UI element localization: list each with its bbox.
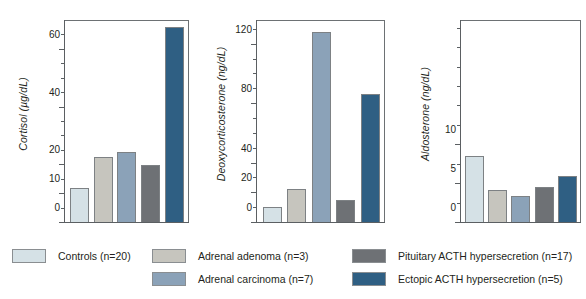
y-axis-minor-tick-aldosterone: [457, 203, 460, 204]
y-axis-minor-tick-cortisol: [61, 63, 64, 64]
y-tick-label-cortisol-60: 60: [49, 30, 60, 40]
y-axis-major-tick-deoxycorticosterone: [251, 103, 256, 104]
chart-legend: Controls (n=20) Adrenal adenoma (n=3)Adr…: [0, 244, 586, 289]
y-axis-minor-tick-deoxycorticosterone: [253, 148, 256, 149]
legend-swatch: [352, 272, 386, 286]
y-axis-tick-labels-aldosterone: 0510: [430, 6, 456, 222]
legend-column-3: Pituitary ACTH hypersecretion (n=17)Ecto…: [352, 244, 572, 290]
y-axis-minor-tick-cortisol: [61, 92, 64, 93]
bar-cortisol-series-4: [141, 165, 160, 222]
bar-aldosterone-series-1: [465, 156, 484, 222]
chart-panels-row: Cortisol (µg/dL) 010204060 Deoxycorticos…: [0, 6, 586, 242]
y-axis-major-tick-cortisol: [59, 49, 64, 50]
legend-swatch: [152, 272, 186, 286]
y-axis-major-tick-deoxycorticosterone: [251, 192, 256, 193]
y-axis-minor-tick-aldosterone: [457, 28, 460, 29]
y-tick-label-aldosterone-0: 0: [450, 203, 456, 213]
y-axis-tick-labels-cortisol: 010204060: [34, 6, 60, 222]
y-axis-minor-tick-deoxycorticosterone: [253, 177, 256, 178]
y-axis-title-cortisol-text: Cortisol (µg/dL): [17, 77, 29, 151]
y-tick-label-deoxycorticosterone-40: 40: [241, 144, 252, 154]
legend-label: Ectopic ACTH hypersecretion (n=5): [398, 273, 563, 285]
y-tick-label-cortisol-0: 0: [54, 203, 60, 213]
bar-aldosterone-series-3: [511, 196, 530, 222]
y-axis-minor-tick-aldosterone: [457, 86, 460, 87]
y-tick-label-deoxycorticosterone-20: 20: [241, 173, 252, 183]
y-axis-minor-tick-cortisol: [61, 179, 64, 180]
bar-aldosterone-series-5: [558, 176, 577, 222]
y-axis-major-tick-aldosterone: [455, 144, 460, 145]
y-axis-minor-tick-cortisol: [61, 150, 64, 151]
legend-item: Adrenal adenoma (n=3): [152, 244, 313, 267]
legend-swatch: [152, 249, 186, 263]
bars-cortisol: [65, 20, 189, 222]
bar-deoxycorticosterone-series-2: [287, 189, 306, 222]
y-axis-major-tick-cortisol: [59, 107, 64, 108]
legend-label: Pituitary ACTH hypersecretion (n=17): [398, 250, 572, 262]
y-tick-label-deoxycorticosterone-80: 80: [241, 84, 252, 94]
bar-deoxycorticosterone-series-4: [336, 200, 355, 222]
y-axis-major-tick-deoxycorticosterone: [251, 44, 256, 45]
x-axis-line-aldosterone: [460, 222, 581, 223]
y-tick-label-deoxycorticosterone-0: 0: [246, 203, 252, 213]
y-axis-tick-labels-deoxycorticosterone: 0204080120: [226, 6, 252, 222]
y-axis-minor-tick-aldosterone: [457, 125, 460, 126]
y-axis-major-tick-deoxycorticosterone: [251, 163, 256, 164]
x-axis-line-deoxycorticosterone: [256, 222, 385, 223]
legend-item: Controls (n=20): [12, 244, 131, 267]
bar-deoxycorticosterone-series-3: [312, 32, 331, 222]
bar-deoxycorticosterone-series-5: [361, 94, 380, 222]
y-axis-minor-tick-cortisol: [61, 135, 64, 136]
legend-column-1: Controls (n=20): [12, 244, 131, 267]
bars-aldosterone: [461, 20, 581, 222]
bar-cortisol-series-5: [165, 27, 184, 222]
y-axis-minor-tick-deoxycorticosterone: [253, 207, 256, 208]
legend-label: Adrenal adenoma (n=3): [198, 250, 309, 262]
y-axis-minor-tick-deoxycorticosterone: [253, 29, 256, 30]
y-axis-minor-tick-deoxycorticosterone: [253, 88, 256, 89]
legend-item: Adrenal carcinoma (n=7): [152, 267, 313, 290]
y-axis-minor-tick-deoxycorticosterone: [253, 133, 256, 134]
y-axis-minor-tick-cortisol: [61, 78, 64, 79]
y-axis-minor-tick-deoxycorticosterone: [253, 118, 256, 119]
chart-panel-deoxycorticosterone: Deoxycorticosterone (ng/dL) 0204080120: [196, 6, 396, 242]
legend-swatch: [12, 249, 46, 263]
y-tick-label-cortisol-40: 40: [49, 88, 60, 98]
y-axis-minor-tick-aldosterone: [457, 47, 460, 48]
chart-panel-cortisol: Cortisol (µg/dL) 010204060: [0, 6, 196, 242]
y-axis-minor-tick-aldosterone: [457, 67, 460, 68]
figure-bar-chart-panels: Cortisol (µg/dL) 010204060 Deoxycorticos…: [0, 0, 586, 299]
bar-deoxycorticosterone-series-1: [263, 207, 282, 222]
legend-column-2: Adrenal adenoma (n=3)Adrenal carcinoma (…: [152, 244, 313, 290]
y-axis-minor-tick-deoxycorticosterone: [253, 73, 256, 74]
y-tick-label-aldosterone-5: 5: [450, 164, 456, 174]
legend-swatch: [352, 249, 386, 263]
bar-aldosterone-series-2: [488, 190, 507, 222]
y-axis-major-tick-cortisol: [59, 193, 64, 194]
bar-cortisol-series-2: [94, 157, 113, 223]
y-axis-minor-tick-aldosterone: [457, 105, 460, 106]
y-tick-label-cortisol-20: 20: [49, 145, 60, 155]
y-axis-minor-tick-cortisol: [61, 121, 64, 122]
x-axis-line-cortisol: [64, 222, 189, 223]
legend-label: Controls (n=20): [58, 250, 131, 262]
y-axis-major-tick-cortisol: [59, 164, 64, 165]
y-tick-label-deoxycorticosterone-120: 120: [235, 25, 252, 35]
bars-deoxycorticosterone: [257, 20, 385, 222]
y-axis-major-tick-aldosterone: [455, 183, 460, 184]
legend-item: Pituitary ACTH hypersecretion (n=17): [352, 244, 572, 267]
y-axis-minor-tick-cortisol: [61, 34, 64, 35]
bar-cortisol-series-3: [117, 152, 136, 222]
y-axis-minor-tick-aldosterone: [457, 164, 460, 165]
y-axis-minor-tick-deoxycorticosterone: [253, 59, 256, 60]
legend-label: Adrenal carcinoma (n=7): [198, 273, 313, 285]
y-axis-minor-tick-cortisol: [61, 208, 64, 209]
bar-aldosterone-series-4: [535, 187, 554, 222]
y-tick-label-aldosterone-10: 10: [445, 125, 456, 135]
y-tick-label-cortisol-10: 10: [49, 174, 60, 184]
y-axis-title-cortisol: Cortisol (µg/dL): [12, 6, 34, 222]
bar-cortisol-series-1: [70, 188, 89, 222]
legend-item: Ectopic ACTH hypersecretion (n=5): [352, 267, 572, 290]
chart-panel-aldosterone: Aldosterone (ng/dL) 0510: [396, 6, 586, 242]
